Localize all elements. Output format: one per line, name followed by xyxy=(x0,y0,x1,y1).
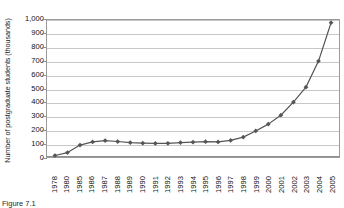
series-line xyxy=(55,23,331,156)
x-axis-tick-label-text: 1997 xyxy=(226,176,235,193)
figure-caption: Figure 7.1 xyxy=(2,199,122,208)
y-axis-tick-label: 700 xyxy=(12,57,44,65)
data-point-marker xyxy=(329,20,334,25)
data-point-marker xyxy=(166,141,171,146)
x-axis-tick-label-text: 1993 xyxy=(176,176,185,193)
data-point-marker xyxy=(216,140,221,145)
y-axis-tick-label: 1,000 xyxy=(12,15,44,23)
y-axis-title-text: Number of postgraduate students (thousan… xyxy=(3,18,12,162)
data-point-marker xyxy=(53,153,58,158)
data-point-marker xyxy=(253,129,258,134)
x-axis-tick-label: 2005 xyxy=(312,159,344,171)
x-axis-tick-label-text: 2003 xyxy=(302,176,311,193)
data-point-marker xyxy=(191,140,196,145)
y-axis-tick-label: 600 xyxy=(12,71,44,79)
x-axis-tick-label-text: 1995 xyxy=(201,176,210,193)
x-axis-tick-label-text: 1980 xyxy=(62,176,71,193)
x-axis-tick-label-text: 1988 xyxy=(113,176,122,193)
x-axis-tick-label-text: 1987 xyxy=(100,176,109,193)
y-axis-tick-label: 800 xyxy=(12,43,44,51)
data-point-marker xyxy=(103,138,108,143)
y-axis-tick-label: 900 xyxy=(12,29,44,37)
x-axis-tick-label-text: 1985 xyxy=(75,176,84,193)
data-point-marker xyxy=(316,59,321,64)
data-point-marker xyxy=(140,141,145,146)
data-point-marker xyxy=(153,141,158,146)
data-point-marker xyxy=(241,135,246,140)
x-axis-tick-label-text: 1999 xyxy=(252,176,261,193)
series-postgraduate-students xyxy=(47,20,339,157)
data-point-marker xyxy=(128,140,133,145)
chart-figure: Number of postgraduate students (thousan… xyxy=(0,0,344,208)
x-axis-tick-label-text: 1989 xyxy=(125,176,134,193)
x-axis-tick-labels: 1978198019851986198719881989199019911992… xyxy=(46,159,340,203)
y-axis-tick-label: 500 xyxy=(12,85,44,93)
data-point-marker xyxy=(115,139,120,144)
x-axis-tick-label-text: 1996 xyxy=(214,176,223,193)
x-axis-tick-label-text: 1986 xyxy=(87,176,96,193)
x-axis-tick-label-text: 2002 xyxy=(290,176,299,193)
x-axis-tick-label-text: 1991 xyxy=(151,176,160,193)
y-axis-tick-label: 200 xyxy=(12,126,44,134)
plot-area xyxy=(46,19,340,158)
x-axis-tick-label-text: 1992 xyxy=(163,176,172,193)
x-axis-tick-label-text: 2001 xyxy=(277,176,286,193)
data-point-marker xyxy=(178,140,183,145)
x-axis-tick-label-text: 2004 xyxy=(315,176,324,193)
x-axis-tick-label-text: 1998 xyxy=(239,176,248,193)
x-axis-tick-label-text: 1994 xyxy=(189,176,198,193)
y-axis-tick-label: 300 xyxy=(12,112,44,120)
data-point-marker xyxy=(228,138,233,143)
x-axis-tick-label-text: 1990 xyxy=(138,176,147,193)
x-axis-tick-label-text: 1978 xyxy=(50,176,59,193)
data-point-marker xyxy=(90,140,95,145)
x-axis-tick-label-text: 2005 xyxy=(328,176,337,193)
data-point-marker xyxy=(203,139,208,144)
y-axis-tick-label: 100 xyxy=(12,140,44,148)
x-axis-tick-label-text: 2000 xyxy=(264,176,273,193)
y-axis-tick-label: 400 xyxy=(12,98,44,106)
